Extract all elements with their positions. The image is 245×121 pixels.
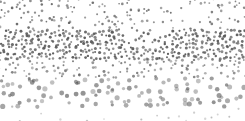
- dot: [57, 5, 60, 8]
- dot: [243, 6, 245, 9]
- dot: [57, 39, 60, 42]
- dot: [98, 51, 101, 54]
- dot: [166, 46, 169, 49]
- dot: [143, 53, 145, 55]
- dot: [10, 57, 13, 60]
- dot: [40, 52, 42, 54]
- dot: [187, 65, 190, 68]
- dot: [36, 57, 38, 59]
- dot: [187, 102, 192, 107]
- dot: [200, 2, 203, 5]
- dot: [158, 89, 163, 94]
- dot: [134, 23, 136, 25]
- dot: [106, 16, 108, 18]
- dot: [143, 40, 146, 43]
- dot: [84, 48, 86, 50]
- dot: [103, 118, 105, 120]
- dot: [236, 42, 239, 45]
- dot: [189, 3, 191, 5]
- dot: [16, 6, 18, 8]
- dot: [166, 10, 169, 13]
- dot: [75, 57, 78, 60]
- dot: [166, 101, 169, 104]
- dot: [21, 38, 23, 40]
- dot: [5, 82, 10, 87]
- dot: [58, 25, 61, 28]
- dot: [147, 58, 150, 61]
- dot: [73, 7, 75, 9]
- dot: [99, 40, 101, 42]
- dot: [156, 103, 160, 107]
- dot: [201, 29, 204, 32]
- dot: [70, 6, 72, 8]
- dot: [220, 95, 224, 99]
- dot: [192, 42, 195, 45]
- dot: [94, 38, 97, 41]
- dot: [162, 103, 165, 106]
- dot: [236, 33, 239, 36]
- dot: [230, 29, 233, 32]
- dot: [87, 32, 90, 35]
- dot: [166, 56, 168, 58]
- dot: [34, 99, 37, 102]
- dot: [163, 61, 165, 63]
- dot: [138, 10, 140, 12]
- dot: [234, 56, 236, 58]
- dot: [201, 42, 203, 44]
- dot: [94, 47, 97, 50]
- dot: [170, 51, 173, 54]
- dot: [117, 33, 120, 36]
- dot: [129, 14, 131, 16]
- dot: [35, 78, 38, 81]
- dot: [143, 8, 145, 10]
- dot: [49, 36, 52, 39]
- dot: [126, 70, 128, 72]
- dot: [91, 48, 93, 50]
- dot: [219, 59, 221, 61]
- dot: [31, 38, 33, 40]
- dot: [188, 34, 191, 37]
- dot: [119, 71, 121, 73]
- dot: [2, 50, 5, 53]
- dot: [62, 56, 65, 59]
- dot: [161, 80, 165, 84]
- dot: [45, 53, 47, 55]
- dot: [156, 115, 158, 117]
- dot: [198, 101, 202, 105]
- dot: [27, 34, 30, 37]
- dot: [83, 77, 88, 82]
- dot: [40, 19, 43, 22]
- dot: [10, 31, 12, 33]
- dot: [0, 79, 3, 82]
- dot: [241, 85, 245, 90]
- dot: [14, 53, 16, 55]
- dot: [96, 43, 99, 46]
- dot: [41, 3, 44, 6]
- dot: [0, 16, 2, 18]
- dot: [175, 87, 179, 91]
- dot: [126, 14, 128, 16]
- dot: [111, 21, 113, 23]
- dot: [69, 43, 71, 45]
- dot: [196, 34, 199, 37]
- dot: [153, 21, 155, 23]
- dot: [91, 61, 94, 64]
- dot: [142, 46, 145, 49]
- dot: [222, 104, 226, 108]
- dot: [220, 10, 223, 13]
- dot: [94, 102, 98, 106]
- dot: [241, 40, 244, 43]
- dot: [229, 38, 232, 41]
- dot: [58, 29, 60, 31]
- dot: [176, 34, 178, 36]
- dot: [238, 61, 241, 64]
- dot: [89, 4, 91, 6]
- dot: [115, 16, 117, 18]
- dot: [16, 23, 19, 26]
- dot: [235, 53, 237, 55]
- dot: [19, 56, 22, 59]
- dot: [113, 37, 115, 39]
- dot: [188, 40, 190, 42]
- dot: [222, 47, 224, 49]
- dot: [11, 71, 14, 74]
